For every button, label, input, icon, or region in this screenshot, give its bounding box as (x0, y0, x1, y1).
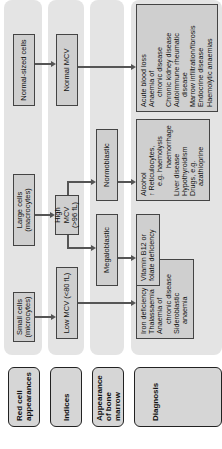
box-high-mcv: High MCV (>96 fL) (55, 195, 79, 235)
connector (35, 63, 51, 65)
connector (67, 247, 91, 249)
arrow-icon (131, 179, 136, 185)
arrow-icon (131, 300, 136, 306)
arrow-icon (131, 64, 136, 70)
diagnosis-item: azathioprine (197, 124, 205, 196)
box-megaloblastic: Megaloblastic (96, 214, 118, 286)
connector (118, 257, 131, 259)
diagnosis-item: folate deficiency (148, 219, 156, 281)
box-low-mcv: Low MCV (<80 fL) (56, 267, 78, 339)
arrow-icon (50, 212, 55, 218)
box-normal-mcv: Normal MCV (56, 34, 78, 106)
connector (35, 214, 50, 216)
connector (78, 302, 131, 304)
connector (78, 66, 131, 68)
arrow-icon (51, 61, 56, 67)
anaemia-classification-diagram: Red cell appearances Indices Appearance … (0, 0, 222, 449)
diagnosis-item: Haemolytic anaemias (206, 9, 214, 107)
box-normal-cells: Normal-sized cells (13, 34, 35, 106)
diagnosis-normoblastic: Alcohol ↑ Reticulocytes, e.g. haemolysis… (136, 119, 210, 201)
connector (35, 316, 51, 318)
diagnosis-item: anaemia (181, 264, 189, 334)
header-diagnosis: Diagnosis (134, 367, 222, 427)
connector (67, 181, 69, 195)
diagnosis-normocytic: Acute blood loss Anaemia of chronic dise… (136, 4, 218, 112)
box-large-cells: Large cells (macrocytes) (13, 174, 35, 246)
connector (118, 181, 131, 183)
arrow-icon (131, 255, 136, 261)
header-red-cell: Red cell appearances (8, 367, 40, 427)
box-small-cells: Small cells (microcytes) (13, 292, 35, 342)
box-normoblastic: Normoblastic (96, 129, 118, 201)
header-bone-marrow: Appearance of bone marrow (92, 367, 124, 427)
arrow-icon (91, 245, 96, 251)
arrow-icon (91, 179, 96, 185)
arrow-icon (51, 314, 56, 320)
diagnosis-megaloblastic: Vitamin B12 or folate deficiency (136, 214, 160, 286)
connector (67, 181, 91, 183)
header-indices: Indices (50, 367, 82, 427)
